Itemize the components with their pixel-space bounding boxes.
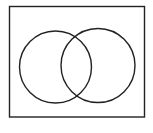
- venn-diagram-svg: [0, 0, 153, 133]
- venn-diagram: [0, 0, 153, 133]
- universal-set-rectangle: [10, 7, 145, 118]
- set-b-circle: [61, 29, 135, 103]
- set-a-circle: [20, 31, 92, 103]
